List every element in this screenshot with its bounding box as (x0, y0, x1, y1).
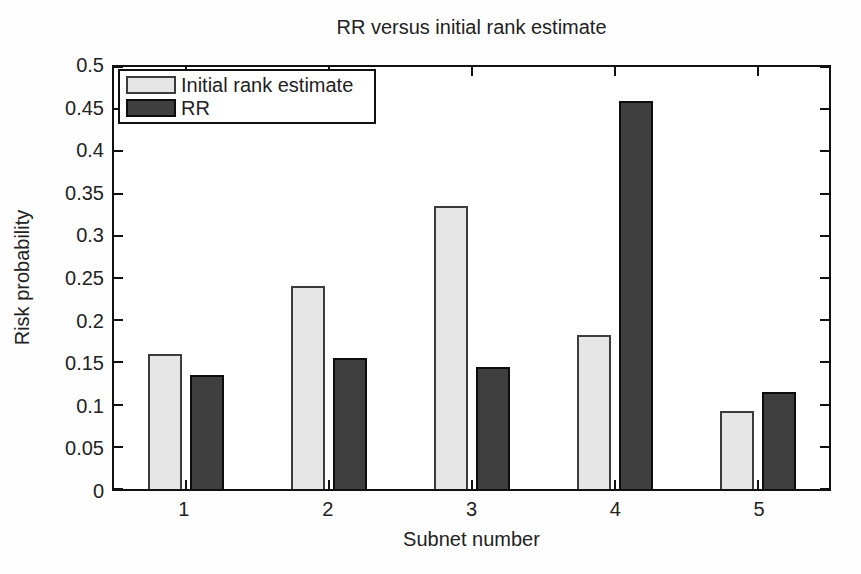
y-axis-tick (820, 66, 829, 68)
chart-figure: RR versus initial rank estimate Risk pro… (0, 0, 861, 574)
x-axis-tick (185, 480, 187, 489)
y-axis-tick (820, 235, 829, 237)
y-axis-tick (114, 277, 123, 279)
bar-group-subnet-4 (543, 67, 686, 489)
legend-label: Initial rank estimate (181, 75, 353, 95)
plot-area (112, 65, 831, 491)
legend-item-initial-rank-estimate: Initial rank estimate (126, 75, 368, 95)
x-tick-labels: 12345 (112, 499, 831, 523)
bar-initial-rank-estimate-subnet-2 (291, 286, 325, 489)
y-axis-tick (820, 150, 829, 152)
y-tick-labels: 00.050.10.150.20.250.30.350.40.450.5 (0, 65, 104, 491)
y-tick-label-0.05: 0.05 (65, 438, 104, 458)
y-tick-label-0.5: 0.5 (76, 55, 104, 75)
bar-initial-rank-estimate-subnet-1 (148, 354, 182, 489)
y-axis-tick (820, 361, 829, 363)
x-axis-tick (471, 67, 473, 76)
legend: Initial rank estimate RR (118, 69, 376, 124)
x-tick-label-3: 3 (466, 499, 477, 519)
bar-initial-rank-estimate-subnet-4 (577, 335, 611, 489)
x-tick-label-5: 5 (754, 499, 765, 519)
bar-rr-subnet-4 (619, 101, 653, 489)
y-axis-tick (114, 488, 123, 490)
y-axis-tick (820, 108, 829, 110)
y-axis-tick (820, 488, 829, 490)
y-tick-label-0.45: 0.45 (65, 98, 104, 118)
y-tick-label-0.4: 0.4 (76, 140, 104, 160)
x-axis-tick (614, 67, 616, 76)
x-axis-tick (757, 67, 759, 76)
bar-group-subnet-2 (257, 67, 400, 489)
legend-swatch-rr-icon (126, 99, 176, 117)
chart-title: RR versus initial rank estimate (112, 16, 831, 38)
x-axis-title: Subnet number (112, 528, 831, 551)
bar-rr-subnet-5 (762, 392, 796, 489)
legend-label: RR (181, 98, 210, 118)
legend-swatch-initial-rank-icon (126, 76, 176, 94)
y-axis-tick (114, 404, 123, 406)
y-axis-tick (114, 66, 123, 68)
y-tick-label-0.1: 0.1 (76, 396, 104, 416)
y-axis-tick (114, 150, 123, 152)
y-axis-tick (114, 361, 123, 363)
y-axis-tick (820, 277, 829, 279)
y-axis-tick (114, 319, 123, 321)
y-tick-label-0.2: 0.2 (76, 311, 104, 331)
y-axis-tick (114, 235, 123, 237)
x-axis-tick (614, 480, 616, 489)
y-axis-tick (114, 193, 123, 195)
bar-initial-rank-estimate-subnet-5 (720, 411, 754, 489)
y-tick-label-0.15: 0.15 (65, 353, 104, 373)
x-axis-tick (757, 480, 759, 489)
y-tick-label-0: 0 (93, 481, 104, 501)
x-tick-label-4: 4 (610, 499, 621, 519)
y-axis-tick (114, 446, 123, 448)
y-tick-label-0.25: 0.25 (65, 268, 104, 288)
y-axis-tick (820, 404, 829, 406)
bar-group-subnet-3 (400, 67, 543, 489)
legend-item-rr: RR (126, 98, 368, 118)
bar-rr-subnet-1 (190, 375, 224, 489)
bar-group-subnet-5 (686, 67, 829, 489)
bar-rr-subnet-3 (476, 367, 510, 489)
x-axis-tick (328, 480, 330, 489)
y-axis-tick (820, 193, 829, 195)
bar-initial-rank-estimate-subnet-3 (434, 206, 468, 489)
y-axis-tick (820, 446, 829, 448)
y-axis-tick (820, 319, 829, 321)
y-tick-label-0.3: 0.3 (76, 225, 104, 245)
y-tick-label-0.35: 0.35 (65, 183, 104, 203)
x-axis-tick (471, 480, 473, 489)
x-tick-label-1: 1 (178, 499, 189, 519)
x-tick-label-2: 2 (322, 499, 333, 519)
bar-rr-subnet-2 (333, 358, 367, 489)
bar-group-subnet-1 (114, 67, 257, 489)
